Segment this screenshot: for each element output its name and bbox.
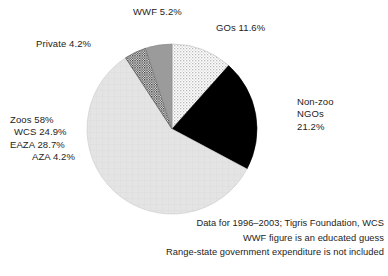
chart-footnotes: Data for 1996–2003; Tigris Foundation, W…	[120, 216, 384, 260]
slice-label-private: Private 4.2%	[36, 38, 91, 50]
slice-label-zoos-wcs: WCS 24.9%	[10, 126, 75, 138]
slice-label-non-zoo-ngos: Non-zoo NGOs 21.2%	[297, 96, 334, 133]
pie-chart-figure: WWF 5.2% GOs 11.6% Private 4.2% Non-zoo …	[0, 0, 388, 276]
slice-label-non-zoo-line-1: Non-zoo	[297, 96, 334, 108]
slice-label-zoos-eaza: EAZA 28.7%	[10, 139, 75, 151]
footnote-wwf-estimate: WWF figure is an educated guess	[120, 231, 384, 246]
footnote-data-source: Data for 1996–2003; Tigris Foundation, W…	[120, 216, 384, 231]
slice-label-non-zoo-line-3: 21.2%	[297, 121, 334, 133]
slice-label-zoos-total: Zoos 58%	[10, 114, 75, 126]
slice-label-zoos-aza: AZA 4.2%	[10, 151, 75, 163]
slice-label-zoos-group: Zoos 58% WCS 24.9% EAZA 28.7% AZA 4.2%	[10, 114, 75, 164]
slice-label-non-zoo-line-2: NGOs	[297, 108, 334, 120]
slice-label-wwf: WWF 5.2%	[133, 6, 182, 18]
slice-label-gos: GOs 11.6%	[216, 22, 265, 34]
footnote-exclusion-note: Range-state government expenditure is no…	[120, 245, 384, 260]
